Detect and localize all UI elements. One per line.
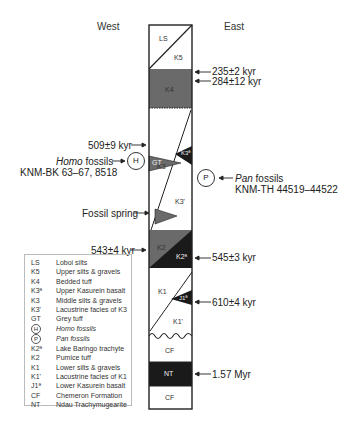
unconformity-line [149,334,192,339]
legend-row: GTGrey tuff [31,314,131,323]
legend-row: K4Bedded tuff [31,277,131,286]
label-k1: K1 [158,288,167,295]
label-k3prime: K3' [175,198,185,205]
legend-row: J1ªLower Kasurein basalt [31,381,131,390]
pan-circle-icon: P [31,334,41,344]
date-284-kyr: 284±12 kyr [212,76,261,87]
label-k2: K2 [157,244,166,251]
label-k5: K5 [174,54,183,61]
legend-row: K5Upper silts & gravels [31,267,131,276]
date-1-57-myr: 1.57 Myr [212,369,251,380]
legend-row: PPan fossils [31,334,131,344]
legend-row: K3ªUpper Kasurein basalt [31,286,131,295]
legend-row: CFChemeron Formation [31,391,131,400]
label-k3a: K3ª [181,150,191,156]
legend-row: HHomo fossils [31,324,131,334]
homo-fossils-label: Homo fossils [56,156,113,167]
label-ls: LS [159,35,168,42]
label-k2a: K2ª [176,253,187,260]
label-cf-lower: CF [165,394,174,401]
pan-fossil-symbol: P [197,169,215,187]
label-k1prime: K1' [173,318,183,325]
legend-row: K1Lower silts & gravels [31,363,131,372]
label-k3: K3 [157,163,166,170]
date-545-kyr: 545±3 kyr [212,252,256,263]
fossil-spring-label: Fossil spring [82,208,138,219]
legend-row: K3'Lacustrine facies of K3 [31,305,131,314]
label-cf-upper: CF [165,347,174,354]
homo-circle-icon: H [31,324,41,334]
label-k4: K4 [165,86,174,93]
legend-row: LSLoboi silts [31,258,131,267]
homo-fossil-symbol: H [127,152,145,170]
legend-box: LSLoboi silts K5Upper silts & gravels K4… [24,254,132,406]
legend-row: K1'Lacustrine facies of K1 [31,372,131,381]
homo-specimens: KNM-BK 63–67, 8518 [20,167,117,178]
legend-row: K2Pumice tuff [31,353,131,362]
date-610-kyr: 610±4 kyr [212,297,256,308]
pan-specimens: KNM-TH 44519–44522 [235,184,338,195]
legend-row: NTNdau Trachymugearite [31,400,131,409]
date-509-kyr: 509±9 kyr [88,140,132,151]
label-j1a: J1ª [179,295,188,301]
fossil-spring-wedge [155,209,177,224]
pan-fossils-label: Pan fossils [235,173,283,184]
legend-row: K2ªLake Baringo trachyte [31,344,131,353]
label-nt: NT [164,370,173,377]
legend-row: K3Middle silts & gravels [31,296,131,305]
